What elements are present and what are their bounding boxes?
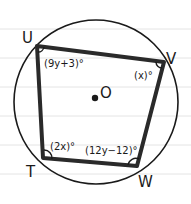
- vertex-label-v: V: [166, 50, 177, 68]
- angle-label-t: (2x)°: [50, 141, 75, 152]
- vertex-label-t: T: [25, 163, 36, 181]
- angle-label-v: (x)°: [134, 70, 153, 81]
- angle-label-w: (12y−12)°: [85, 145, 138, 156]
- vertex-label-w: W: [138, 173, 153, 191]
- vertex-label-u: U: [22, 29, 33, 47]
- angle-label-u: (9y+3)°: [44, 58, 84, 69]
- center-point: [92, 95, 98, 101]
- inscribed-quadrilateral-diagram: O U V W T (9y+3)° (x)° (2x)° (12y−12)°: [0, 0, 191, 204]
- center-label: O: [100, 84, 112, 102]
